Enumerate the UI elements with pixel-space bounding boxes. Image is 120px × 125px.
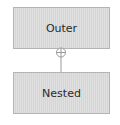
nested-class-box[interactable]: Nested bbox=[13, 72, 110, 114]
nested-class-label: Nested bbox=[42, 87, 81, 100]
circle-plus-icon bbox=[57, 48, 66, 57]
